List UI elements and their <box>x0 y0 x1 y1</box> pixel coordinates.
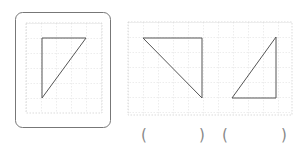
reference-panel <box>16 13 111 128</box>
answer-blank-a-open: ( <box>141 128 147 143</box>
figure-canvas <box>0 0 304 151</box>
options-grid <box>128 22 292 115</box>
answer-blank-b-close: ) <box>281 128 287 143</box>
answer-blank-b-open: ( <box>222 128 228 143</box>
options-panel <box>128 22 292 115</box>
answer-blank-a-close: ) <box>199 128 205 143</box>
